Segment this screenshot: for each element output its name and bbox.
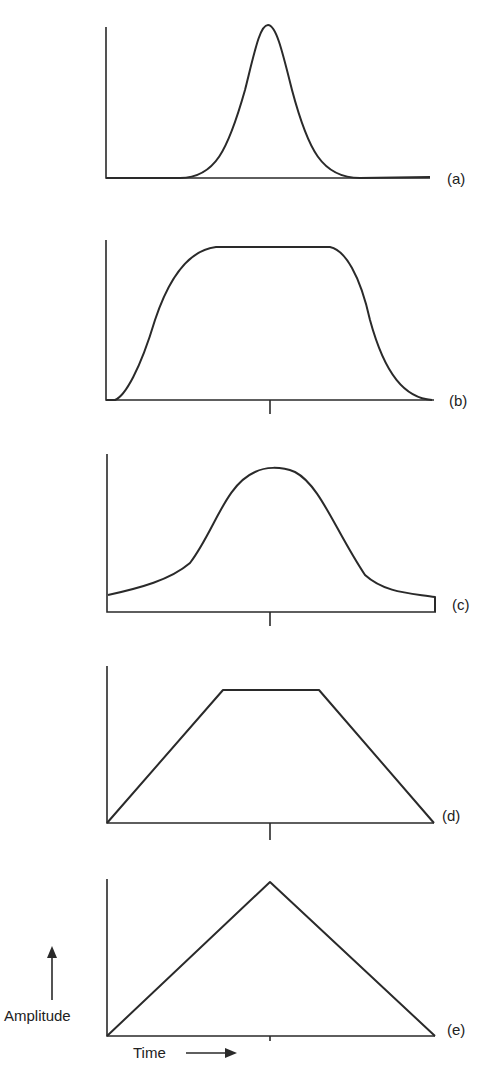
axes-e [107, 879, 435, 1036]
panel-a: (a) [106, 25, 465, 187]
panel-label-a: (a) [447, 170, 465, 187]
pulse-shapes-figure: (a) (b) (c) (d) (e) Amplitude Time [0, 0, 503, 1090]
panel-label-d: (d) [442, 807, 460, 824]
panel-d: (d) [107, 666, 460, 840]
curve-d-trapezoid [107, 690, 434, 823]
panel-label-c: (c) [452, 596, 470, 613]
curve-b-flat-top [106, 247, 432, 400]
y-axis-label: Amplitude [4, 1007, 71, 1024]
axes-a [106, 27, 430, 178]
panel-e: (e) Amplitude Time [4, 879, 465, 1061]
x-axis-label: Time [133, 1044, 166, 1061]
panel-label-e: (e) [447, 1021, 465, 1038]
curve-a-gaussian [106, 25, 430, 178]
curve-c-pedestal-bell [108, 468, 435, 612]
panel-c: (c) [107, 454, 470, 626]
curve-e-triangle [107, 882, 435, 1036]
panel-b: (b) [106, 240, 467, 414]
time-arrow-icon [225, 1048, 237, 1058]
amplitude-arrow-icon [47, 946, 57, 958]
panel-label-b: (b) [449, 392, 467, 409]
